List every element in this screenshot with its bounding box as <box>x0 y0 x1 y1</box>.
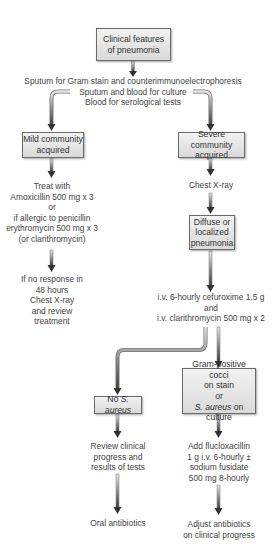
node-diffuse-localized: Diffuse or localized pneumonia <box>189 215 235 250</box>
arrow-no-saureus-to-review <box>114 414 122 438</box>
node-text: treatment <box>21 316 83 327</box>
node-text: sodium fusidate <box>187 462 251 473</box>
node-text: localized <box>195 227 228 238</box>
node-text: acquired <box>195 150 228 161</box>
node-text: Adjust antibiotics <box>183 519 255 530</box>
node-gram-positive: Gram-positive cocci on stain or S. aureu… <box>182 368 256 414</box>
node-text: i.v. clarithromycin 500 mg x 2 <box>157 313 265 324</box>
node-clinical-features: Clinical features of pneumonia <box>96 28 171 61</box>
node-severe-community: Severe community acquired <box>178 132 245 158</box>
node-oral-antibiotics: Oral antibiotics <box>90 518 145 529</box>
node-text: Severe community <box>179 129 244 150</box>
node-text: pneumonia <box>191 238 234 249</box>
node-text: and review <box>21 306 83 317</box>
node-mild-community: Mild community acquired <box>22 132 84 158</box>
node-text: Chest X-ray <box>21 295 83 306</box>
node-text: or <box>6 202 98 213</box>
node-text: Oral antibiotics <box>90 518 145 529</box>
node-text: results of tests <box>91 462 146 473</box>
node-text: 500 mg 8-hourly <box>187 473 251 484</box>
node-text-italic: S. aureus <box>195 402 232 412</box>
node-text: and <box>157 303 265 314</box>
node-text: Blood for serological tests <box>24 97 241 108</box>
node-text: If no response in <box>21 274 83 285</box>
arrow-chest-xray-to-diffuse <box>207 193 215 214</box>
arrow-treat-to-no-response <box>48 250 56 272</box>
node-chest-xray: Chest X-ray <box>189 180 233 191</box>
node-text: 1 g i.v. 6-hourly ± <box>187 452 251 463</box>
node-iv-treatment: i.v. 6-hourly cefuroxime 1.5 g and i.v. … <box>157 292 265 324</box>
node-text: Review clinical <box>91 441 146 452</box>
node-text-prefix: No <box>107 394 120 404</box>
node-text: 48 hours <box>21 285 83 296</box>
node-text: Amoxicillin 500 mg x 3 <box>6 192 98 203</box>
node-text: Treat with <box>6 181 98 192</box>
node-flucloxacillin: Add flucloxacillin 1 g i.v. 6-hourly ± s… <box>187 441 251 483</box>
arrow-mild-to-treat <box>48 158 56 178</box>
node-text: i.v. 6-hourly cefuroxime 1.5 g <box>157 292 265 303</box>
node-mild-treatment: Treat with Amoxicillin 500 mg x 3 or if … <box>6 181 98 245</box>
node-text: or <box>215 391 223 402</box>
node-text: Sputum for Gram stain and counterimmunoe… <box>24 76 241 87</box>
node-text: (or clarithromycin) <box>6 234 98 245</box>
node-text: on clinical progress <box>183 530 255 541</box>
node-text: on stain <box>204 380 234 391</box>
node-text: progress and <box>91 452 146 463</box>
node-text: Sputum and blood for culture <box>24 87 241 98</box>
node-review: Review clinical progress and results of … <box>91 441 146 473</box>
arrow-diffuse-to-iv <box>207 251 215 292</box>
arrow-fluclox-to-adjust <box>215 485 223 515</box>
node-text: erythromycin 500 mg x 3 <box>6 223 98 234</box>
node-text: Clinical features <box>103 34 164 45</box>
pneumonia-flowchart: Clinical features of pneumonia Sputum fo… <box>0 0 279 551</box>
node-text: Add flucloxacillin <box>187 441 251 452</box>
node-text: Mild community <box>23 134 83 145</box>
node-text: if allergic to penicillin <box>6 213 98 224</box>
arrow-start-to-tests <box>129 61 137 77</box>
node-text: S. aureus on culture <box>183 402 255 423</box>
node-no-response: If no response in 48 hours Chest X-ray a… <box>21 274 83 327</box>
node-text: No S. aureus <box>95 394 141 415</box>
node-text: Diffuse or <box>194 217 231 228</box>
arrow-review-to-oral <box>114 474 122 514</box>
node-tests: Sputum for Gram stain and counterimmunoe… <box>24 76 241 108</box>
node-no-saureus: No S. aureus <box>94 396 142 414</box>
node-text: Gram-positive cocci <box>183 359 255 380</box>
node-text: of pneumonia <box>107 45 159 56</box>
node-text: Chest X-ray <box>189 180 233 191</box>
node-adjust-antibiotics: Adjust antibiotics on clinical progress <box>183 519 255 540</box>
node-text: acquired <box>37 145 70 156</box>
